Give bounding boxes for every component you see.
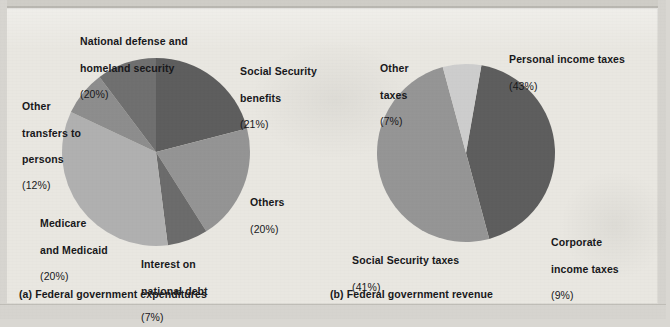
label-social-security-line2: benefits xyxy=(240,92,281,104)
label-other-transfers-pct: (12%) xyxy=(22,179,51,191)
page-edge-right xyxy=(658,0,666,319)
label-interest-pct: (7%) xyxy=(141,311,164,323)
label-other-transfers-line1: Other xyxy=(22,100,51,112)
label-corporate-line2: income taxes xyxy=(551,263,619,275)
label-corporate-pct: (9%) xyxy=(551,289,574,301)
label-personal-income-taxes: Personal income taxes (43%) xyxy=(497,40,657,106)
label-medicare-line2: and Medicaid xyxy=(40,244,108,256)
label-social-security-line1: Social Security xyxy=(240,65,317,77)
label-national-defense-line2: homeland security xyxy=(80,62,174,74)
label-other-transfers-line3: persons xyxy=(22,153,64,165)
label-interest-line1: Interest on xyxy=(141,258,196,270)
label-corporate-line1: Corporate xyxy=(551,236,602,248)
label-others-line1: Others xyxy=(250,196,284,208)
label-other-taxes-line2: taxes xyxy=(380,89,407,101)
label-other-taxes-pct: (7%) xyxy=(380,115,403,127)
label-personal-income-pct: (43%) xyxy=(509,80,538,92)
page-edge-left xyxy=(0,0,7,319)
label-corporate-income-taxes: Corporate income taxes (9%) xyxy=(539,223,654,315)
label-personal-income-line1: Personal income taxes xyxy=(509,53,625,65)
label-social-security-taxes-line1: Social Security taxes xyxy=(352,254,459,266)
label-others: Others (20%) xyxy=(238,183,328,249)
label-national-defense-line1: National defense and xyxy=(80,35,188,47)
label-medicare-line1: Medicare xyxy=(40,217,86,229)
page-edge-top-line xyxy=(0,6,666,8)
caption-panel-a: (a) Federal government expenditures xyxy=(19,288,207,300)
caption-panel-b: (b) Federal government revenue xyxy=(330,288,493,300)
label-other-taxes: Other taxes (7%) xyxy=(368,49,438,141)
label-medicare-medicaid: Medicare and Medicaid (20%) xyxy=(28,204,138,296)
label-other-transfers-line2: transfers to xyxy=(22,127,81,139)
label-others-pct: (20%) xyxy=(250,223,279,235)
label-other-taxes-line1: Other xyxy=(380,62,409,74)
label-medicare-pct: (20%) xyxy=(40,270,69,282)
label-interest-national-debt: Interest on national debt (7%) xyxy=(129,245,239,327)
label-other-transfers: Other transfers to persons (12%) xyxy=(10,87,100,206)
label-social-security-pct: (21%) xyxy=(240,118,269,130)
label-social-security-benefits: Social Security benefits (21%) xyxy=(228,52,348,144)
